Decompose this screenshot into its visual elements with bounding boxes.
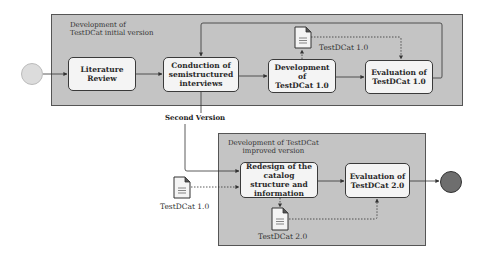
task-literature-review-label: Literature Review — [71, 65, 133, 83]
task-evaluation-1-line1: Evaluation of — [371, 68, 427, 77]
task-redesign-line3: information — [254, 189, 304, 198]
start-event — [21, 63, 43, 85]
task-evaluation-2-line2: TestDCat 2.0 — [351, 181, 405, 190]
task-development-1: Development of TestDCat 1.0 — [268, 59, 336, 93]
task-evaluation-1: Evaluation of TestDCat 1.0 — [365, 60, 433, 94]
task-conduction-interviews: Conduction of semistructured interviews — [163, 57, 239, 92]
task-evaluation-1-line2: TestDCat 1.0 — [372, 77, 426, 86]
task-development-1-line1: Development of — [271, 63, 333, 81]
task-redesign-line1: Redesign of the — [246, 162, 312, 171]
task-redesign: Redesign of the catalog structure and in… — [240, 162, 318, 198]
flow-label-second-version: Second Version — [165, 113, 225, 122]
flow-second-version-to-redesign — [185, 124, 239, 171]
document-icon-top — [295, 27, 311, 48]
task-conduction-line3: interviews — [179, 79, 222, 88]
end-event — [440, 171, 462, 193]
assoc-bottomdoc-to-evaluation2 — [289, 199, 377, 219]
task-literature-review: Literature Review — [68, 57, 136, 91]
connectors — [0, 0, 485, 259]
document-icon-left — [174, 177, 190, 198]
task-redesign-line2: catalog structure and — [243, 171, 315, 189]
task-development-1-line2: TestDCat 1.0 — [275, 81, 329, 90]
task-evaluation-2: Evaluation of TestDCat 2.0 — [345, 163, 410, 198]
task-conduction-line1: Conduction of — [171, 61, 230, 70]
document-label-bottom: TestDCat 2.0 — [258, 232, 307, 241]
document-label-left: TestDCat 1.0 — [160, 202, 209, 211]
document-icon-bottom — [272, 208, 288, 230]
task-evaluation-2-line1: Evaluation of — [350, 172, 406, 181]
document-label-top: TestDCat 1.0 — [319, 43, 368, 52]
task-conduction-line2: semistructured — [169, 70, 233, 79]
